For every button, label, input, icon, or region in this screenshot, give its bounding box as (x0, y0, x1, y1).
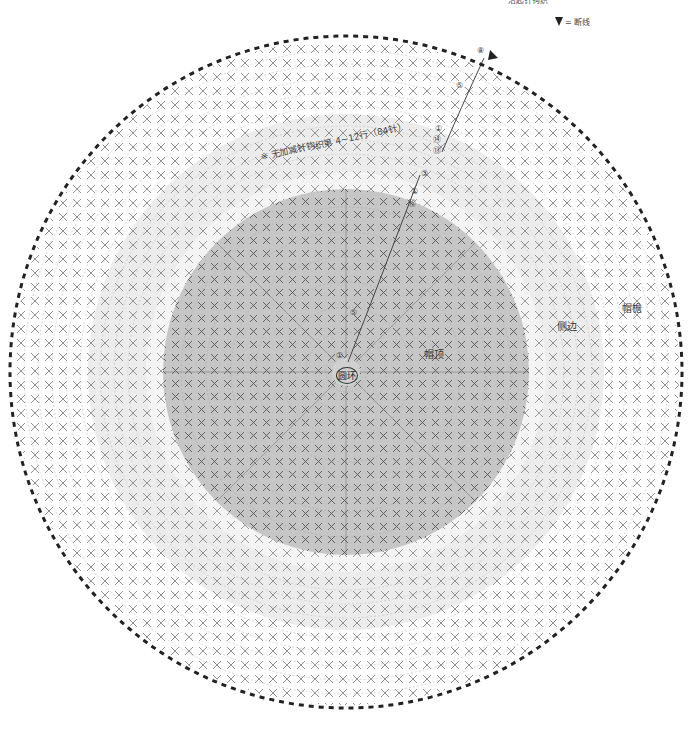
cut-yarn-marker (488, 50, 498, 60)
svg-text:⑤: ⑤ (456, 81, 463, 90)
legend-label: = 断线 (565, 16, 590, 27)
legend: = 断线 (555, 16, 590, 27)
crochet-chart: ⑧ ⑤ ① ⑭ ⑬ ③ ① ⑮ ⑤ ① (0, 0, 700, 731)
svg-text:⑮: ⑮ (408, 199, 416, 208)
svg-text:⑬: ⑬ (433, 146, 441, 155)
svg-text:⑭: ⑭ (433, 135, 441, 144)
top-note: 沿起针钩织 (508, 0, 548, 5)
svg-text:①: ① (435, 124, 442, 133)
brim-label: 帽檐 (622, 300, 642, 315)
crown-label: 帽顶 (424, 346, 444, 361)
center-ring-label: 圆环 (336, 367, 358, 384)
svg-text:①: ① (411, 187, 418, 196)
side-label: 侧边 (557, 318, 577, 333)
svg-text:⑤: ⑤ (350, 308, 357, 317)
cut-yarn-triangle-icon (555, 17, 563, 26)
svg-text:③: ③ (421, 169, 428, 178)
svg-text:①: ① (336, 351, 343, 360)
svg-text:⑧: ⑧ (477, 46, 484, 55)
